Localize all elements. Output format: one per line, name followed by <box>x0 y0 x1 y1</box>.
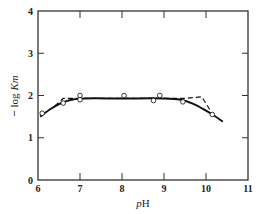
solid-curve <box>40 98 223 121</box>
data-point-marker <box>122 93 127 98</box>
y-tick-label: 3 <box>28 48 33 59</box>
x-tick-label: 9 <box>162 183 167 194</box>
plot-frame <box>38 11 248 180</box>
data-point-marker <box>181 100 186 105</box>
data-point-marker <box>158 93 163 98</box>
y-tick-label: 4 <box>28 6 33 17</box>
data-point-marker <box>151 98 156 103</box>
x-tick-labels: 67891011 <box>36 183 253 194</box>
x-axis-title-suffix: H <box>142 197 150 209</box>
x-axis-title: pH <box>135 197 150 209</box>
y-axis-title-sign: − <box>8 111 20 117</box>
y-tick-labels: 01234 <box>28 6 33 186</box>
y-tick-label: 2 <box>28 90 33 101</box>
y-axis-title: −logKm <box>8 75 20 117</box>
y-axis-title-var: Km <box>8 75 20 91</box>
x-tick-label: 10 <box>201 183 211 194</box>
chart: 67891011 01234 pH −logKm <box>0 0 260 214</box>
data-point-marker <box>40 111 45 116</box>
y-axis-title-log: log <box>8 93 20 108</box>
x-tick-label: 6 <box>36 183 41 194</box>
data-point-marker <box>78 97 83 102</box>
y-tick-label: 1 <box>28 132 33 143</box>
axis-ticks <box>38 11 248 180</box>
x-tick-label: 8 <box>120 183 125 194</box>
x-tick-label: 7 <box>78 183 83 194</box>
data-point-marker <box>210 112 215 117</box>
y-tick-label: 0 <box>28 175 33 186</box>
x-tick-label: 11 <box>243 183 252 194</box>
plot-border <box>38 11 248 180</box>
fitted-curve-line <box>40 98 223 121</box>
data-points <box>40 93 215 117</box>
data-point-marker <box>61 101 66 106</box>
